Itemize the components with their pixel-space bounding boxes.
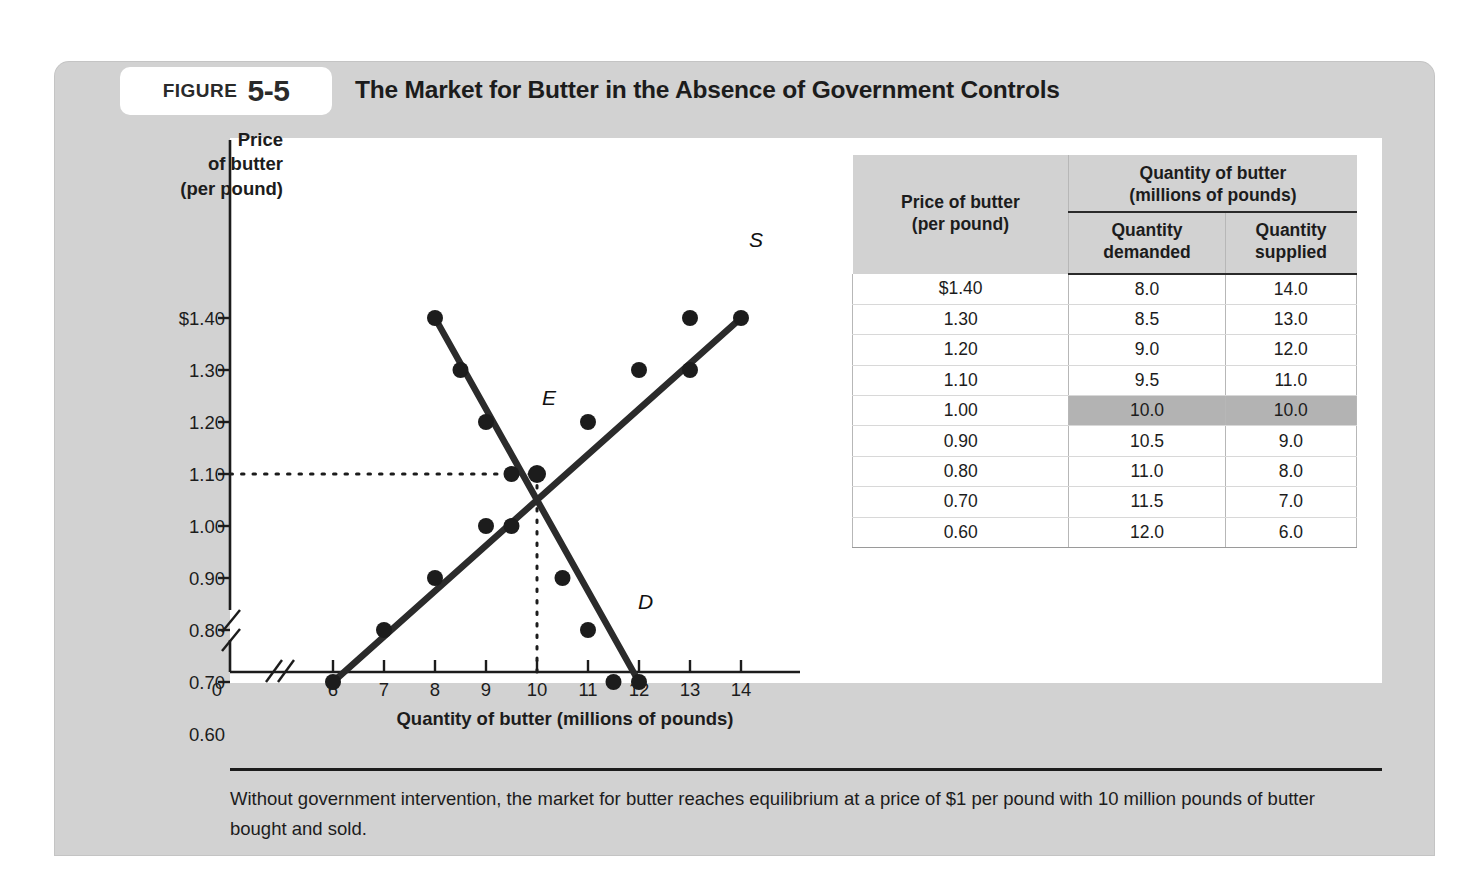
cell-demanded: 8.0	[1069, 274, 1225, 305]
table-row: 0.80 11.0 8.0	[853, 456, 1357, 486]
header-price: Price of butter (per pound)	[853, 155, 1069, 274]
cell-price: 1.10	[853, 365, 1069, 395]
header-quantity-demanded: Quantity demanded	[1069, 212, 1225, 274]
cell-price: $1.40	[853, 274, 1069, 305]
cell-demanded: 9.0	[1069, 335, 1225, 365]
cell-demanded: 11.5	[1069, 487, 1225, 517]
header-quantity-group: Quantity of butter (millions of pounds)	[1069, 155, 1357, 212]
table-row: 1.30 8.5 13.0	[853, 304, 1357, 334]
y-axis-break-mark	[222, 610, 240, 632]
table-row: 1.10 9.5 11.0	[853, 365, 1357, 395]
table-row: $1.40 8.0 14.0	[853, 274, 1357, 305]
cell-supplied: 6.0	[1225, 517, 1356, 547]
table-row-equilibrium: 1.00 10.0 10.0	[853, 396, 1357, 426]
table-header-group-row: Price of butter (per pound) Quantity of …	[853, 155, 1357, 212]
cell-price: 1.20	[853, 335, 1069, 365]
table-row: 0.60 12.0 6.0	[853, 517, 1357, 547]
figure-panel: FIGURE 5-5 The Market for Butter in the …	[55, 62, 1434, 855]
cell-price: 1.30	[853, 304, 1069, 334]
cell-supplied-highlighted: 10.0	[1225, 396, 1356, 426]
cell-price: 1.00	[853, 396, 1069, 426]
cell-supplied: 12.0	[1225, 335, 1356, 365]
table-body: $1.40 8.0 14.0 1.30 8.5 13.0 1.20 9.0 12…	[853, 274, 1357, 548]
header-quantity-sub: (millions of pounds)	[1073, 185, 1352, 207]
caption-divider	[230, 768, 1382, 771]
header-supplied-line-1: Quantity	[1232, 220, 1351, 242]
cell-demanded: 8.5	[1069, 304, 1225, 334]
header-price-main: Price of butter	[863, 192, 1059, 214]
cell-price: 0.70	[853, 487, 1069, 517]
cell-demanded-highlighted: 10.0	[1069, 396, 1225, 426]
cell-price: 0.90	[853, 426, 1069, 456]
cell-demanded: 10.5	[1069, 426, 1225, 456]
cell-demanded: 11.0	[1069, 456, 1225, 486]
cell-supplied: 7.0	[1225, 487, 1356, 517]
supply-demand-table: Price of butter (per pound) Quantity of …	[852, 155, 1357, 548]
cell-price: 0.60	[853, 517, 1069, 547]
header-price-sub: (per pound)	[863, 214, 1059, 236]
header-quantity-main: Quantity of butter	[1073, 163, 1352, 185]
table-row: 0.70 11.5 7.0	[853, 487, 1357, 517]
figure-caption: Without government intervention, the mar…	[230, 784, 1350, 844]
table-row: 1.20 9.0 12.0	[853, 335, 1357, 365]
cell-supplied: 11.0	[1225, 365, 1356, 395]
cell-supplied: 8.0	[1225, 456, 1356, 486]
cell-demanded: 9.5	[1069, 365, 1225, 395]
cell-supplied: 13.0	[1225, 304, 1356, 334]
header-demanded-line-2: demanded	[1075, 242, 1218, 264]
header-quantity-supplied: Quantity supplied	[1225, 212, 1356, 274]
cell-demanded: 12.0	[1069, 517, 1225, 547]
table-row: 0.90 10.5 9.0	[853, 426, 1357, 456]
header-demanded-line-1: Quantity	[1075, 220, 1218, 242]
header-supplied-line-2: supplied	[1232, 242, 1351, 264]
cell-supplied: 14.0	[1225, 274, 1356, 305]
cell-price: 0.80	[853, 456, 1069, 486]
cell-supplied: 9.0	[1225, 426, 1356, 456]
